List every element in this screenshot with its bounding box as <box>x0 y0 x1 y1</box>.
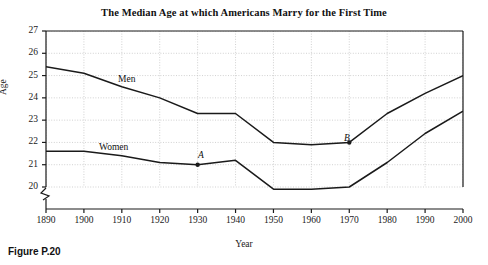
x-axis-tick-label: 1920 <box>140 215 180 225</box>
x-axis-tick-label: 1960 <box>291 215 331 225</box>
y-axis-tick-label: 25 <box>16 70 38 80</box>
vertical-gridlines <box>46 31 463 187</box>
annotation-label-b: B <box>344 133 350 143</box>
y-axis-tick-label: 24 <box>16 92 38 102</box>
chart-title: The Median Age at which Americans Marry … <box>0 7 488 18</box>
series-line-men <box>46 67 463 145</box>
y-axis-tick-label: 27 <box>16 25 38 35</box>
series-label-men: Men <box>118 74 135 84</box>
x-axis-tick-label: 1990 <box>405 215 445 225</box>
plot-area: Men Women A B <box>46 31 463 187</box>
x-axis-tick-label: 1910 <box>102 215 142 225</box>
x-axis-title: Year <box>0 239 488 249</box>
figure-caption: Figure P.20 <box>8 246 61 257</box>
x-axis-tick-label: 1930 <box>178 215 218 225</box>
annotation-label-a: A <box>198 150 204 160</box>
figure-container: The Median Age at which Americans Marry … <box>0 0 488 265</box>
chart-canvas <box>46 31 463 191</box>
x-axis-tick-label: 1940 <box>216 215 256 225</box>
horizontal-gridlines <box>46 31 463 187</box>
x-axis-tick-label: 1890 <box>26 215 66 225</box>
y-axis-tick-label: 23 <box>16 114 38 124</box>
x-axis-tick-label: 1980 <box>367 215 407 225</box>
y-axis-tick-label: 22 <box>16 136 38 146</box>
x-axis-tick-label: 2000 <box>443 215 483 225</box>
x-axis-tick-label: 1970 <box>329 215 369 225</box>
y-axis-tick-label: 26 <box>16 47 38 57</box>
y-axis-tick-label: 21 <box>16 159 38 169</box>
y-axis-title: Age <box>0 79 8 95</box>
x-axis-tick-label: 1950 <box>253 215 293 225</box>
series-label-women: Women <box>99 142 128 152</box>
y-axis-tick-label: 20 <box>16 181 38 191</box>
x-axis-tick-label: 1900 <box>64 215 104 225</box>
